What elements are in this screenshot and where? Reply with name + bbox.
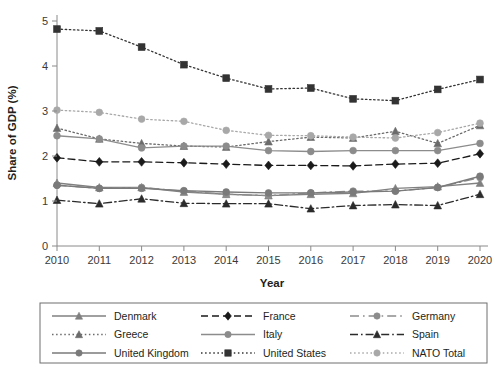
- data-point: [434, 184, 441, 191]
- data-point: [96, 109, 103, 116]
- legend-marker-sample: [225, 350, 231, 356]
- x-tick-label: 2018: [383, 254, 407, 266]
- data-point: [434, 147, 441, 154]
- y-tick-label: 1: [42, 195, 48, 207]
- x-tick-label: 2016: [299, 254, 323, 266]
- legend-marker-sample: [225, 331, 231, 337]
- x-tick-label: 2012: [129, 254, 153, 266]
- data-point: [350, 189, 357, 196]
- legend-item-label: NATO Total: [412, 347, 465, 359]
- data-point: [181, 143, 188, 150]
- x-tick-label: 2014: [214, 254, 238, 266]
- y-tick-label: 5: [42, 15, 48, 27]
- data-point: [307, 190, 314, 197]
- data-point: [265, 86, 272, 93]
- data-point: [434, 86, 441, 93]
- data-point: [392, 97, 399, 104]
- data-point: [265, 190, 272, 197]
- legend-marker-sample: [374, 350, 380, 356]
- x-axis-title: Year: [260, 277, 285, 289]
- data-point: [307, 132, 314, 139]
- x-tick-label: 2011: [87, 254, 111, 266]
- data-point: [138, 185, 145, 192]
- legend-item-label: United Kingdom: [114, 347, 189, 359]
- legend-item-label: United States: [263, 347, 326, 359]
- legend-item-label: Germany: [412, 310, 456, 322]
- data-point: [307, 148, 314, 155]
- data-point: [265, 132, 272, 139]
- data-point: [434, 129, 441, 136]
- y-tick-label: 3: [42, 105, 48, 117]
- legend: DenmarkFranceGermanyGreeceItalySpainUnit…: [40, 303, 487, 363]
- y-axis-title: Share of GDP (%): [6, 85, 18, 180]
- data-point: [223, 127, 230, 134]
- data-point: [181, 61, 188, 68]
- y-tick-label: 4: [42, 60, 48, 72]
- legend-marker-sample: [76, 350, 82, 356]
- data-point: [181, 118, 188, 125]
- legend-item-label: Greece: [114, 328, 149, 340]
- x-tick-label: 2019: [425, 254, 449, 266]
- data-point: [54, 182, 61, 189]
- data-point: [477, 140, 484, 147]
- data-point: [138, 145, 145, 152]
- data-point: [138, 116, 145, 123]
- data-point: [392, 147, 399, 154]
- x-tick-label: 2015: [256, 254, 280, 266]
- legend-marker-sample: [374, 313, 380, 319]
- x-tick-label: 2010: [45, 254, 69, 266]
- data-point: [477, 76, 484, 83]
- data-point: [96, 136, 103, 143]
- data-point: [54, 26, 61, 33]
- data-point: [307, 85, 314, 92]
- legend-item-label: Italy: [263, 328, 283, 340]
- data-point: [54, 132, 61, 139]
- data-point: [181, 187, 188, 194]
- data-point: [392, 188, 399, 195]
- data-point: [223, 143, 230, 150]
- data-point: [138, 44, 145, 51]
- data-point: [223, 189, 230, 196]
- x-tick-label: 2013: [172, 254, 196, 266]
- data-point: [223, 75, 230, 82]
- legend-item-label: France: [263, 310, 296, 322]
- legend-item-label: Spain: [412, 328, 439, 340]
- x-tick-label: 2017: [341, 254, 365, 266]
- data-point: [477, 120, 484, 127]
- y-tick-label: 2: [42, 150, 48, 162]
- data-point: [96, 28, 103, 35]
- legend-item-label: Denmark: [114, 310, 157, 322]
- data-point: [392, 135, 399, 142]
- data-point: [54, 107, 61, 114]
- y-tick-label: 0: [42, 240, 48, 252]
- data-point: [477, 173, 484, 180]
- data-point: [350, 95, 357, 102]
- x-tick-label: 2020: [468, 254, 492, 266]
- data-point: [96, 185, 103, 192]
- data-point: [350, 147, 357, 154]
- data-point: [350, 134, 357, 141]
- data-point: [265, 147, 272, 154]
- chart-figure: 0123452010201120122013201420152016201720…: [0, 0, 499, 370]
